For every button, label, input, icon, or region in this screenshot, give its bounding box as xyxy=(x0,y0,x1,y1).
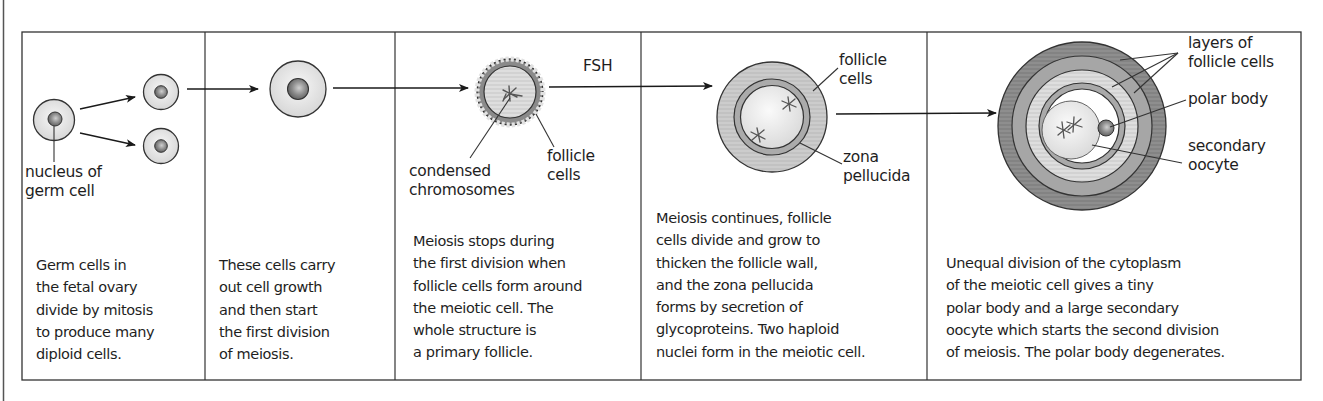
fsh-arrow xyxy=(549,86,712,87)
description-germ-cells: Germ cells in the fetal ovary divide by … xyxy=(36,254,154,365)
label-nucleus-of-germ-cell: nucleus of germ cell xyxy=(25,163,102,201)
label-secondary-oocyte: secondary oocyte xyxy=(1188,137,1266,175)
description-growing-follicle: Meiosis continues, follicle cells divide… xyxy=(656,207,865,363)
maturation-arrow xyxy=(836,113,996,114)
mitosis-arrow-up xyxy=(80,97,135,109)
follicle-cells-pointer-2 xyxy=(813,68,838,91)
grown-cell-icon xyxy=(270,61,326,117)
daughter-cell-icon-1 xyxy=(144,75,179,110)
label-zona-pellucida: zona pellucida xyxy=(843,148,910,186)
label-polar-body: polar body xyxy=(1188,90,1268,109)
mitosis-arrow-down xyxy=(80,133,135,145)
label-condensed-chromosomes: condensed chromosomes xyxy=(409,162,514,200)
label-follicle-cells-growing: follicle cells xyxy=(839,51,887,89)
oogenesis-diagram: nucleus of germ cell Germ cells in the f… xyxy=(0,0,1323,401)
secondary-oocyte-icon xyxy=(1042,101,1100,159)
mature-follicle-icon xyxy=(998,42,1166,210)
label-layers-of-follicle-cells: layers of follicle cells xyxy=(1188,34,1274,72)
primary-follicle-icon xyxy=(477,59,543,125)
polar-body-icon xyxy=(1098,120,1114,136)
growing-follicle-icon xyxy=(717,62,827,172)
label-follicle-cells-primary: follicle cells xyxy=(547,147,595,185)
description-primary-follicle: Meiosis stops during the first division … xyxy=(413,230,582,364)
daughter-cell-icon-2 xyxy=(144,129,179,164)
description-mature-follicle: Unequal division of the cytoplasm of the… xyxy=(946,252,1225,363)
label-fsh: FSH xyxy=(583,57,612,76)
follicle-cells-pointer-1 xyxy=(536,114,554,147)
description-cell-growth: These cells carry out cell growth and th… xyxy=(219,254,335,365)
